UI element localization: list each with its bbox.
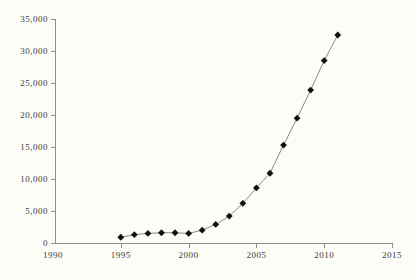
plot-area: 05,00010,00015,00020,00025,00030,00035,0…: [0, 0, 415, 280]
y-tick-label: 10,000: [20, 174, 48, 184]
data-point: [172, 229, 179, 236]
y-tick-label: 15,000: [20, 142, 48, 152]
x-tick-label: 2005: [246, 250, 266, 260]
y-axis: 05,00010,00015,00020,00025,00030,00035,0…: [20, 14, 55, 248]
data-point: [199, 227, 206, 234]
chart-figure: 05,00010,00015,00020,00025,00030,00035,0…: [0, 0, 415, 280]
data-point: [117, 234, 124, 241]
x-tick-label: 1990: [43, 250, 63, 260]
data-point: [280, 142, 287, 149]
y-tick-label: 35,000: [20, 14, 48, 24]
x-tick-label: 2015: [382, 250, 402, 260]
data-point: [321, 57, 328, 64]
series-markers: [117, 32, 341, 241]
data-series: [117, 32, 341, 241]
y-tick-label: 20,000: [20, 110, 48, 120]
x-tick-label: 2000: [179, 250, 199, 260]
data-point: [131, 231, 138, 238]
data-point: [212, 221, 219, 228]
x-axis-tick-labels: 199019952000200520102015: [43, 250, 402, 260]
line-chart-svg: 05,00010,00015,00020,00025,00030,00035,0…: [0, 0, 415, 280]
series-line: [121, 35, 338, 237]
y-tick-label: 25,000: [20, 78, 48, 88]
y-tick-label: 5,000: [25, 206, 48, 216]
data-point: [294, 115, 301, 122]
y-tick-label: 30,000: [20, 46, 48, 56]
data-point: [158, 229, 165, 236]
data-point: [334, 32, 341, 39]
data-point: [307, 87, 314, 94]
data-point: [145, 230, 152, 237]
y-axis-tick-labels: 05,00010,00015,00020,00025,00030,00035,0…: [20, 14, 48, 248]
x-axis: 199019952000200520102015: [43, 243, 402, 260]
y-tick-label: 0: [43, 238, 48, 248]
data-point: [185, 230, 192, 237]
x-tick-label: 2010: [314, 250, 334, 260]
x-tick-label: 1995: [111, 250, 131, 260]
y-axis-ticks: [51, 20, 55, 244]
